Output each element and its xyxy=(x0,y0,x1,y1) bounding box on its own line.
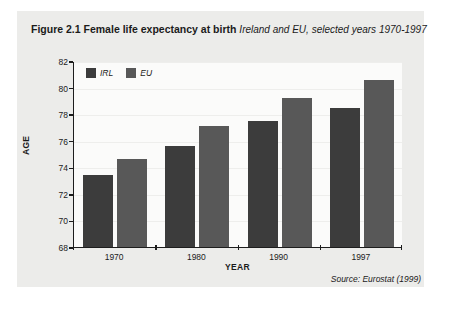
legend-swatch-icon xyxy=(86,68,96,78)
bar-irl-1980[interactable] xyxy=(165,146,195,247)
legend-swatch-icon xyxy=(126,68,136,78)
y-tick-label: 68 xyxy=(59,243,68,253)
y-tick-label: 74 xyxy=(59,163,68,173)
bar-group xyxy=(165,62,229,247)
bar-group xyxy=(248,62,312,247)
legend-label: IRL xyxy=(100,68,113,78)
x-tick-label: 1990 xyxy=(269,252,288,262)
x-axis-title: YEAR xyxy=(73,262,402,272)
y-tick-label: 80 xyxy=(59,84,68,94)
bar-group xyxy=(83,62,147,247)
x-tick-label: 1980 xyxy=(187,252,206,262)
x-tick-label: 1997 xyxy=(351,252,370,262)
y-axis-title: AGE xyxy=(21,136,31,155)
y-tick-label: 76 xyxy=(59,137,68,147)
bar-group xyxy=(330,62,394,247)
bar-irl-1997[interactable] xyxy=(330,108,360,248)
bar-irl-1970[interactable] xyxy=(83,175,113,247)
figure-root: Figure 2.1 Female life expectancy at bir… xyxy=(0,0,454,309)
bars-layer xyxy=(74,62,402,247)
chart-legend: IRLEU xyxy=(86,68,152,78)
bar-eu-1997[interactable] xyxy=(364,80,394,247)
y-tick-label: 78 xyxy=(59,110,68,120)
x-tick-mark xyxy=(155,245,156,250)
plot-area xyxy=(73,62,402,248)
figure-caption: Figure 2.1 Female life expectancy at bir… xyxy=(31,23,421,36)
y-tick-label: 70 xyxy=(59,216,68,226)
legend-item-irl[interactable]: IRL xyxy=(86,68,113,78)
legend-label: EU xyxy=(140,68,152,78)
figure-subtitle: Ireland and EU, selected years 1970-1997 xyxy=(239,24,426,35)
x-tick-label: 1970 xyxy=(105,252,124,262)
figure-title: Female life expectancy at birth xyxy=(84,23,237,35)
y-axis-tick-labels: 6870727476788082 xyxy=(44,62,68,248)
bar-eu-1970[interactable] xyxy=(117,159,147,247)
x-tick-mark xyxy=(401,245,402,250)
figure-number: Figure 2.1 xyxy=(31,23,81,35)
bar-eu-1980[interactable] xyxy=(199,126,229,247)
source-note: Source: Eurostat (1999) xyxy=(331,274,421,284)
bar-irl-1990[interactable] xyxy=(248,121,278,247)
legend-item-eu[interactable]: EU xyxy=(126,68,152,78)
y-tick-label: 82 xyxy=(59,57,68,67)
x-tick-mark xyxy=(320,245,321,250)
x-tick-mark xyxy=(238,245,239,250)
bar-eu-1990[interactable] xyxy=(282,98,312,247)
x-tick-mark xyxy=(73,245,74,250)
y-tick-label: 72 xyxy=(59,190,68,200)
